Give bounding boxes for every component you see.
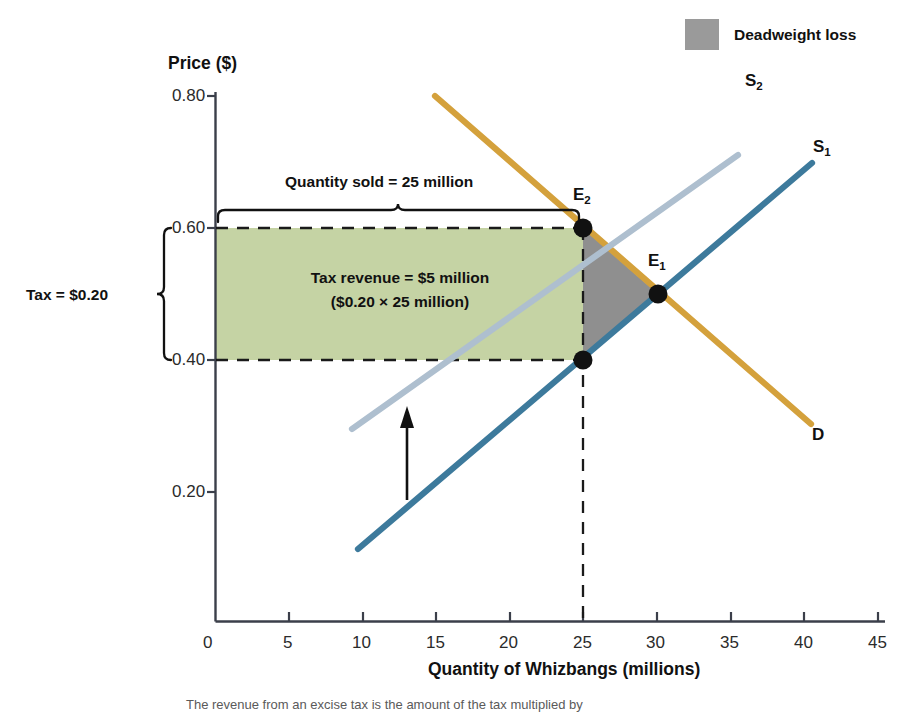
tax-revenue-label-line2: ($0.20 × 25 million)	[250, 294, 550, 310]
point-label-E1-sub: 1	[659, 260, 665, 272]
point-label-E1-text: E	[648, 251, 659, 270]
quantity-sold-brace	[218, 204, 579, 222]
tax-brace	[157, 228, 171, 360]
tax-amount-label: Tax = $0.20	[26, 287, 108, 303]
x-tick-label-25: 25	[573, 634, 592, 651]
x-tick-label-5: 5	[283, 634, 292, 651]
curve-label-S2: S2	[745, 72, 763, 93]
quantity-sold-label: Quantity sold = 25 million	[285, 174, 473, 190]
x-tick-label-30: 30	[646, 634, 665, 651]
y-axis-ticks	[207, 96, 216, 492]
deadweight-loss-region	[583, 228, 658, 360]
point-label-E2-sub: 2	[584, 194, 590, 206]
equilibrium-point-E2	[574, 219, 593, 238]
equilibrium-point-E1	[649, 285, 668, 304]
supply-shift-arrow	[400, 406, 414, 500]
y-tick-label-040: 0.40	[172, 351, 205, 368]
curve-label-S1: S1	[813, 138, 831, 159]
x-tick-label-15: 15	[426, 634, 445, 651]
deadweight-loss-swatch	[685, 19, 719, 50]
y-tick-label-060: 0.60	[172, 219, 205, 236]
figure-caption: The revenue from an excise tax is the am…	[186, 697, 583, 712]
y-tick-label-0: 0	[203, 634, 212, 651]
y-tick-label-080: 0.80	[172, 87, 205, 104]
y-tick-label-020: 0.20	[172, 483, 205, 500]
deadweight-loss-legend-label: Deadweight loss	[734, 27, 856, 43]
curve-label-S1-sub: 1	[824, 146, 830, 158]
x-tick-label-20: 20	[499, 634, 518, 651]
point-label-E1: E1	[648, 252, 666, 273]
x-tick-label-40: 40	[794, 634, 813, 651]
x-tick-label-10: 10	[352, 634, 371, 651]
x-tick-label-45: 45	[868, 634, 887, 651]
curve-label-D-text: D	[812, 425, 824, 444]
y-axis-title: Price ($)	[168, 55, 237, 73]
x-tick-label-35: 35	[720, 634, 739, 651]
tax-wedge-lower-point	[574, 351, 593, 370]
point-label-E2-text: E	[573, 185, 584, 204]
curve-label-S2-text: S	[745, 71, 756, 90]
curve-label-S1-text: S	[813, 137, 824, 156]
curve-label-D: D	[812, 426, 824, 443]
curve-label-S2-sub: 2	[756, 80, 762, 92]
point-label-E2: E2	[573, 186, 591, 207]
tax-revenue-label-line1: Tax revenue = $5 million	[250, 270, 550, 286]
x-axis-title: Quantity of Whizbangs (millions)	[428, 661, 700, 679]
